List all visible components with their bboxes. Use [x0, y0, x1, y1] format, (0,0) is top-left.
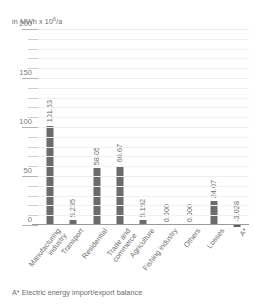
gridline [38, 107, 249, 108]
y-axis-tick-label: 0 [6, 216, 32, 224]
x-axis-line [32, 224, 249, 225]
y-axis-tick [22, 127, 38, 128]
y-axis-tick-label: 200 [6, 20, 32, 28]
gridline [38, 156, 249, 157]
gridline [38, 166, 249, 167]
y-axis-tick [28, 98, 38, 99]
y-axis-tick-label: 150 [6, 69, 32, 77]
y-axis-tick [28, 137, 38, 138]
y-axis-tick [28, 156, 38, 157]
gridline [38, 215, 249, 216]
y-axis-tick [28, 147, 38, 148]
y-axis-tick [28, 88, 38, 89]
y-axis-tick [28, 117, 38, 118]
gridline [38, 176, 249, 177]
y-axis-tick [28, 196, 38, 197]
gridline [38, 98, 249, 99]
y-axis-tick [22, 225, 38, 226]
footnote: A* Electric energy import/export balance [12, 288, 142, 297]
y-axis-tick [28, 215, 38, 216]
gridline [38, 39, 249, 40]
y-axis-unit-suffix: /a [56, 17, 62, 26]
y-axis-tick [28, 39, 38, 40]
y-axis-tick [28, 58, 38, 59]
y-axis-tick [28, 107, 38, 108]
y-axis-tick-label: 50 [6, 167, 32, 175]
gridline [38, 49, 249, 50]
y-axis-tick [28, 186, 38, 187]
gridline [38, 137, 249, 138]
gridline [38, 78, 249, 79]
y-axis-tick [22, 78, 38, 79]
bar-value-label: 0.000 [187, 204, 194, 222]
gridline [38, 88, 249, 89]
x-axis-category-labels: Manufacturing industryTransportResidenti… [38, 227, 249, 285]
bar-value-label: -3.028 [234, 201, 241, 222]
gridline [38, 196, 249, 197]
bar-value-label: 5.235 [70, 199, 77, 217]
gridline [38, 68, 249, 69]
y-axis-tick [28, 49, 38, 50]
y-axis-tick [22, 29, 38, 30]
y-axis-tick [28, 166, 38, 167]
gridline [38, 58, 249, 59]
y-axis-tick-label: 100 [6, 118, 32, 126]
bar-value-label: 5.192 [140, 199, 147, 217]
gridline [38, 117, 249, 118]
gridline [38, 205, 249, 206]
bar-value-label: 0.000 [163, 204, 170, 222]
gridline [38, 29, 249, 30]
bar-value-label: 101.53 [46, 100, 53, 122]
gridline [38, 147, 249, 148]
y-axis-tick [28, 68, 38, 69]
plot-area: 101.535.23558.0560.675.1920.0000.00024.0… [38, 29, 249, 225]
y-axis-tick [22, 176, 38, 177]
gridline [38, 127, 249, 128]
y-axis-tick [28, 205, 38, 206]
gridline [38, 186, 249, 187]
bar-chart: in MWh x 106/a 101.535.23558.0560.675.19… [0, 0, 254, 304]
